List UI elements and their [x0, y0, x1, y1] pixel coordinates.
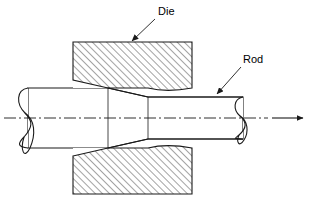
die-lower-half	[73, 146, 192, 194]
die-upper-hatch-fill	[73, 42, 192, 90]
die-lower-hatch-fill	[73, 146, 192, 194]
rod-workpiece	[19, 88, 247, 153]
die-leader-line	[132, 19, 155, 41]
die-upper-half	[73, 42, 192, 90]
rod-label: Rod	[243, 53, 263, 65]
die-label: Die	[158, 5, 175, 17]
rod-leader-line	[217, 67, 241, 94]
rod-drawing-figure: Die Rod	[0, 0, 311, 204]
figure-canvas: Die Rod	[0, 0, 311, 204]
